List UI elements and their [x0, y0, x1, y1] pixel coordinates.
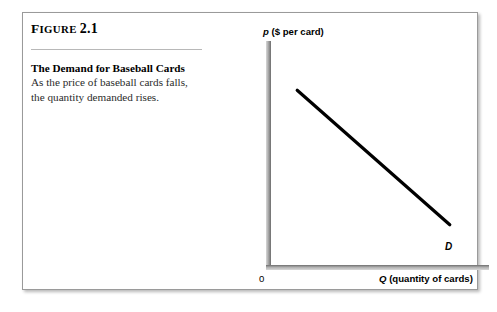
- figure-number: FIGURE2.1: [31, 21, 213, 37]
- caption-title: The Demand for Baseball Cards: [31, 61, 211, 75]
- figure-number-word: IGURE: [39, 23, 76, 35]
- x-axis-variable: Q: [379, 273, 386, 284]
- origin-label: 0: [259, 273, 264, 284]
- demand-curve-label: D: [445, 241, 452, 252]
- chart-area: p ($ per card) D 0 Q (quantity of cards): [213, 13, 479, 291]
- caption-divider: [31, 49, 202, 50]
- x-axis-units: (quantity of cards): [389, 273, 473, 284]
- figure-caption-block: FIGURE2.1: [31, 21, 213, 37]
- x-axis-label: Q (quantity of cards): [379, 273, 473, 284]
- figure-frame: FIGURE2.1 The Demand for Baseball Cards …: [22, 12, 478, 290]
- demand-curve-svg: [213, 13, 479, 291]
- demand-curve-line: [297, 90, 450, 224]
- figure-number-value: 2.1: [80, 21, 98, 36]
- caption-body-text: As the price of baseball cards falls, th…: [31, 75, 196, 105]
